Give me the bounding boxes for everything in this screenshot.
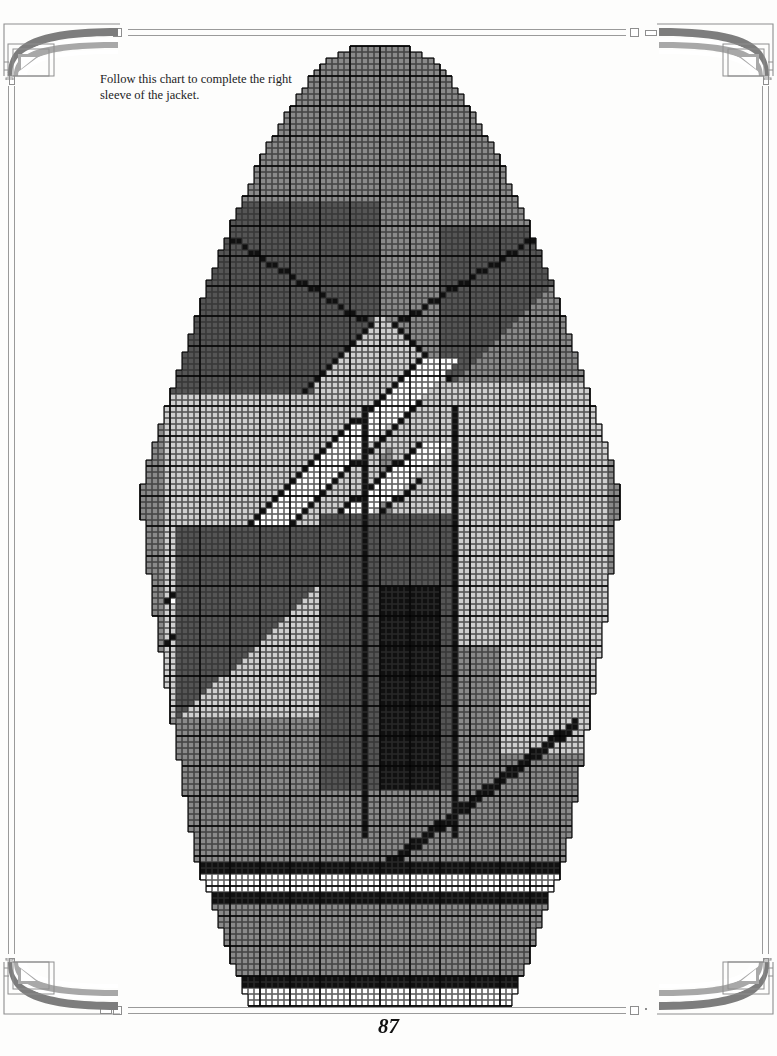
- page-number: 87: [0, 1014, 777, 1039]
- page-root: Follow this chart to complete the right …: [0, 0, 777, 1056]
- knitting-chart: [0, 0, 777, 1056]
